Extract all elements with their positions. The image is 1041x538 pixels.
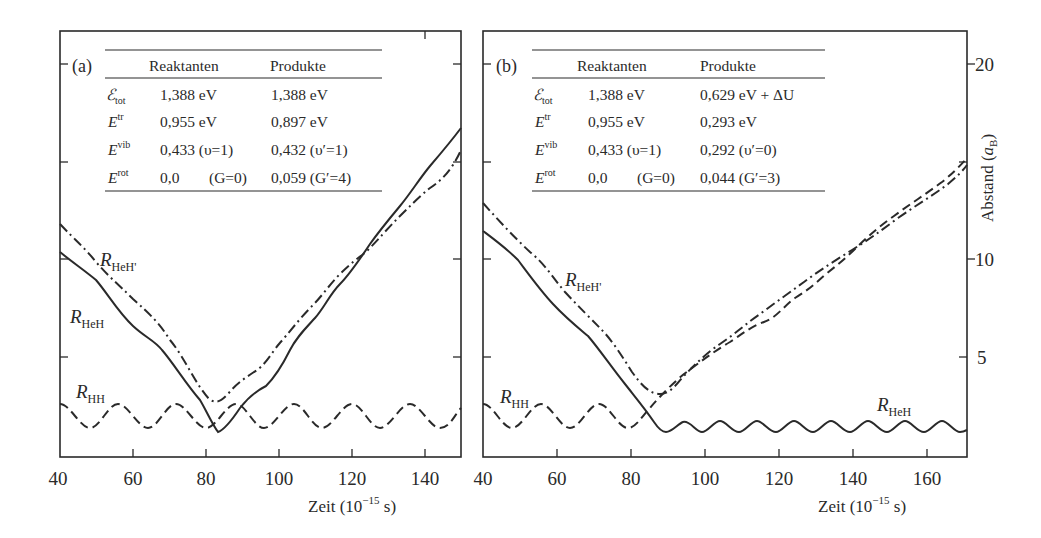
panel-b-curves [483, 158, 967, 432]
table-row-symbol: Erot [107, 167, 129, 186]
table-cell: (G=0) [637, 169, 675, 187]
table-cell: (G=0) [209, 169, 247, 187]
table-cell: 0,433 (υ=1) [588, 141, 661, 159]
table-cell: 0,044 (G′=3) [700, 169, 780, 187]
x-tick-label: 40 [49, 468, 68, 489]
panel-b-x-axis-label: Zeit (10−15 s) [818, 494, 906, 516]
table-cell: 0,433 (υ=1) [160, 141, 233, 159]
table-row-symbol: ℰtot [106, 86, 126, 106]
x-tick-label: 120 [765, 468, 794, 489]
table-cell: 0,0 [588, 169, 608, 186]
y-tick-label: 5 [977, 347, 987, 368]
x-tick-label: 80 [197, 468, 216, 489]
panel-a-x-axis-label: Zeit (10−15 s) [308, 494, 396, 516]
table-row-symbol: Evib [534, 139, 557, 158]
x-tick-label: 60 [548, 468, 567, 489]
curve-r-hh [483, 158, 967, 428]
panel-b: 40 60 80 100 120 140 160 5 10 20 Abstand… [474, 31, 1000, 516]
table-cell: 0,292 (υ′=0) [700, 141, 777, 159]
x-tick-label: 100 [265, 468, 294, 489]
panel-b-x-tick-labels: 40 60 80 100 120 140 160 [474, 468, 942, 489]
label-r-heh: RHeH [876, 394, 912, 419]
label-r-heh: RHeH [69, 306, 105, 331]
panel-a-x-tick-labels: 40 60 80 100 120 140 [49, 468, 440, 489]
panel-b-energy-table: Reaktanten Produkte ℰtot 1,388 eV 0,629 … [532, 50, 825, 191]
table-cell: 0,0 [160, 169, 180, 186]
curve-r-hehprime [60, 150, 461, 402]
figure: 40 60 80 100 120 140 Zeit (10−15 s) (a) … [0, 0, 1041, 538]
curve-r-hh [60, 404, 461, 428]
table-cell: 1,388 eV [588, 86, 646, 103]
table-cell: 0,059 (G′=4) [271, 169, 351, 187]
y-tick-label: 10 [975, 249, 994, 270]
table-cell: 0,955 eV [160, 113, 218, 130]
panel-b-label: (b) [496, 56, 517, 77]
table-cell: 1,388 eV [160, 86, 218, 103]
table-cell: 0,955 eV [588, 113, 646, 130]
label-r-hh: RHH [75, 381, 105, 406]
table-cell: 0,432 (υ′=1) [271, 141, 348, 159]
x-tick-label: 160 [913, 468, 942, 489]
panel-a: 40 60 80 100 120 140 Zeit (10−15 s) (a) … [49, 31, 462, 516]
table-row-symbol: ℰtot [533, 86, 553, 106]
panel-a-label: (a) [72, 56, 92, 77]
x-tick-label: 120 [338, 468, 367, 489]
table-header-reaktanten: Reaktanten [577, 57, 647, 74]
table-cell: 0,293 eV [700, 113, 758, 130]
table-cell: 0,897 eV [271, 113, 329, 130]
label-r-hh: RHH [499, 386, 529, 411]
table-row-symbol: Erot [534, 167, 556, 186]
y-tick-label: 20 [975, 54, 994, 75]
x-tick-label: 80 [622, 468, 641, 489]
panel-b-x-ticks [557, 449, 927, 457]
table-row-symbol: Evib [107, 139, 130, 158]
table-row-symbol: Etr [107, 111, 124, 130]
table-header-produkte: Produkte [700, 57, 756, 74]
x-tick-label: 140 [411, 468, 440, 489]
table-row-symbol: Etr [534, 111, 551, 130]
curve-r-heh [483, 231, 967, 432]
curve-r-hehprime [483, 165, 967, 394]
label-r-hehprime: RHeH' [564, 269, 601, 294]
table-header-produkte: Produkte [270, 57, 326, 74]
panel-a-energy-table: Reaktanten Produkte ℰtot 1,388 eV 1,388 … [105, 50, 382, 191]
table-cell: 1,388 eV [271, 86, 329, 103]
x-tick-label: 60 [124, 468, 143, 489]
table-header-reaktanten: Reaktanten [149, 57, 219, 74]
panel-b-y-ticks [483, 64, 975, 357]
panel-b-y-axis-label: Abstand (aB) [978, 134, 999, 222]
table-cell: 0,629 eV + ΔU [700, 86, 794, 103]
x-tick-label: 100 [691, 468, 720, 489]
x-tick-label: 40 [474, 468, 493, 489]
x-tick-label: 140 [839, 468, 868, 489]
